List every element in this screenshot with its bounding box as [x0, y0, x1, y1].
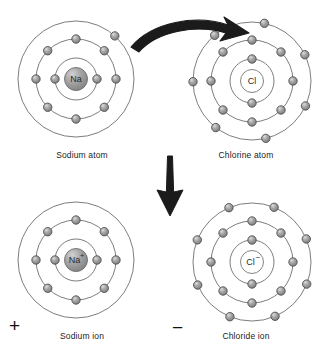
ionic-bonding-diagram: NaClNa+Cl− — [0, 0, 328, 358]
chloride-ion-middle-shell-electron — [289, 258, 297, 266]
chlorine-atom-outer-shell-electron — [260, 19, 268, 27]
sodium-ion-middle-shell-electron — [72, 216, 80, 224]
electron-transfer-arrow — [131, 17, 249, 52]
sodium-atom-middle-shell-electron — [100, 47, 108, 55]
sodium-ion-middle-shell-electron — [44, 284, 52, 292]
caption-chlorine-atom: Chlorine atom — [164, 150, 328, 160]
panels-layer: NaClNa+Cl− — [18, 19, 311, 321]
chlorine-atom-middle-shell-electron — [219, 48, 227, 56]
caption-chloride-ion: Chloride ion — [164, 331, 328, 341]
sodium-ion-middle-shell-electron — [112, 256, 120, 264]
chlorine-atom-middle-shell-electron — [277, 48, 285, 56]
chloride-ion-outer-shell-electron — [271, 312, 279, 320]
chloride-ion-outer-shell-electron — [193, 281, 201, 289]
diagram-canvas: NaClNa+Cl− Sodium atom Chlorine atom Sod… — [0, 0, 328, 358]
chlorine-atom-outer-shell-electron — [301, 51, 309, 59]
chloride-ion-inner-shell-electron — [248, 280, 256, 288]
chloride-ion-outer-shell-electron — [225, 203, 233, 211]
sodium-atom-middle-shell-electron — [72, 115, 80, 123]
sodium-ion-nucleus-label: Na — [69, 255, 81, 265]
chloride-ion-outer-shell-electron — [303, 280, 311, 288]
chloride-ion-middle-shell-electron — [277, 229, 285, 237]
chloride-ion-outer-shell-electron — [302, 235, 310, 243]
sodium-ion-middle-shell-electron — [32, 256, 40, 264]
chlorine-atom-middle-shell-electron — [277, 106, 285, 114]
atom-chlorine-atom: Cl — [189, 19, 311, 142]
chloride-ion-middle-shell-electron — [207, 258, 215, 266]
chloride-ion-outer-shell-electron — [270, 203, 278, 211]
chlorine-atom-middle-shell-electron — [248, 36, 256, 44]
charge-label-positive: + — [9, 316, 20, 335]
chlorine-atom-middle-shell-electron — [289, 77, 297, 85]
caption-sodium-atom: Sodium atom — [0, 150, 164, 160]
chloride-ion-outer-shell-electron — [193, 236, 201, 244]
sodium-ion-middle-shell-electron — [72, 296, 80, 304]
sodium-ion-inner-shell-electron — [51, 256, 59, 264]
chlorine-atom-outer-shell-electron — [210, 31, 218, 39]
sodium-atom-middle-shell-electron — [100, 103, 108, 111]
sodium-atom-inner-shell-electron — [93, 75, 101, 83]
caption-sodium-ion: Sodium ion — [0, 331, 164, 341]
sodium-atom-middle-shell-electron — [72, 35, 80, 43]
atom-chloride-ion: Cl− — [193, 203, 311, 321]
reaction-down-arrow — [157, 156, 183, 216]
chlorine-atom-middle-shell-electron — [248, 118, 256, 126]
sodium-ion-nucleus-charge: + — [80, 251, 85, 260]
chloride-ion-middle-shell-electron — [219, 287, 227, 295]
sodium-atom-outer-shell-electron — [111, 32, 119, 40]
chlorine-atom-middle-shell-electron — [207, 77, 215, 85]
chloride-ion-inner-shell-electron — [248, 236, 256, 244]
sodium-ion-inner-shell-electron — [93, 256, 101, 264]
chlorine-atom-nucleus-label: Cl — [248, 76, 257, 86]
chlorine-atom-inner-shell-electron — [248, 55, 256, 63]
chlorine-atom-outer-shell-electron — [189, 78, 197, 86]
atom-sodium-atom: Na — [18, 21, 134, 137]
atom-sodium-ion: Na+ — [18, 202, 134, 318]
chlorine-atom-inner-shell-electron — [248, 99, 256, 107]
sodium-atom-nucleus-label: Na — [70, 74, 82, 84]
chloride-ion-nucleus-label: Cl — [246, 257, 255, 267]
sodium-ion-middle-shell-electron — [44, 228, 52, 236]
charge-label-negative: − — [172, 318, 183, 337]
chloride-ion-middle-shell-electron — [219, 229, 227, 237]
sodium-atom-inner-shell-electron — [51, 75, 59, 83]
chloride-ion-outer-shell-electron — [226, 313, 234, 321]
sodium-atom-middle-shell-electron — [44, 47, 52, 55]
chlorine-atom-outer-shell-electron — [262, 134, 270, 142]
chloride-ion-nucleus-charge: − — [256, 253, 261, 262]
sodium-ion-middle-shell-electron — [100, 284, 108, 292]
chlorine-atom-outer-shell-electron — [301, 102, 309, 110]
chloride-ion-middle-shell-electron — [248, 299, 256, 307]
sodium-atom-middle-shell-electron — [32, 75, 40, 83]
sodium-atom-middle-shell-electron — [112, 75, 120, 83]
sodium-ion-middle-shell-electron — [100, 228, 108, 236]
sodium-atom-middle-shell-electron — [44, 103, 52, 111]
chlorine-atom-outer-shell-electron — [212, 123, 220, 131]
chlorine-atom-middle-shell-electron — [219, 106, 227, 114]
chloride-ion-middle-shell-electron — [277, 287, 285, 295]
chloride-ion-middle-shell-electron — [248, 217, 256, 225]
